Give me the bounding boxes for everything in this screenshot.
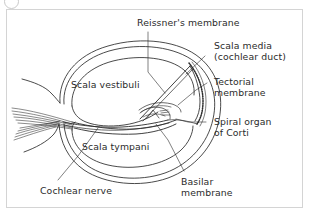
label-reissners-membrane: Reissner's membrane (137, 17, 240, 28)
label-basilar-line1: Basilar (181, 176, 213, 187)
label-cochlear-nerve: Cochlear nerve (40, 185, 112, 196)
reissners-membrane-line (140, 66, 190, 119)
label-scala-vestibuli: Scala vestibuli (71, 79, 140, 90)
scala-tympani-roof (72, 122, 75, 130)
leader-basilar (156, 124, 184, 171)
label-scala-tympani: Scala tympani (82, 141, 150, 152)
label-tectorial-line1: Tectorial (214, 76, 254, 87)
modiolus-edge-upper (22, 79, 60, 103)
stria-vascularis-band (189, 63, 203, 124)
cochlear-nerve-bundle (12, 108, 72, 140)
label-spiral-organ-line1: Spiral organ (214, 116, 271, 127)
tectorial-membrane-under (141, 106, 171, 112)
leader-cochlear-nerve (58, 128, 98, 180)
label-basilar-line2: membrane (181, 187, 233, 198)
label-spiral-organ-line2: of Corti (214, 127, 249, 138)
cochlea-figure: Reissner's membrane Scala media (cochlea… (0, 0, 311, 217)
label-tectorial-line2: membrane (214, 87, 266, 98)
label-scala-media-line1: Scala media (214, 40, 272, 51)
label-scala-media-line2: (cochlear duct) (214, 51, 286, 62)
